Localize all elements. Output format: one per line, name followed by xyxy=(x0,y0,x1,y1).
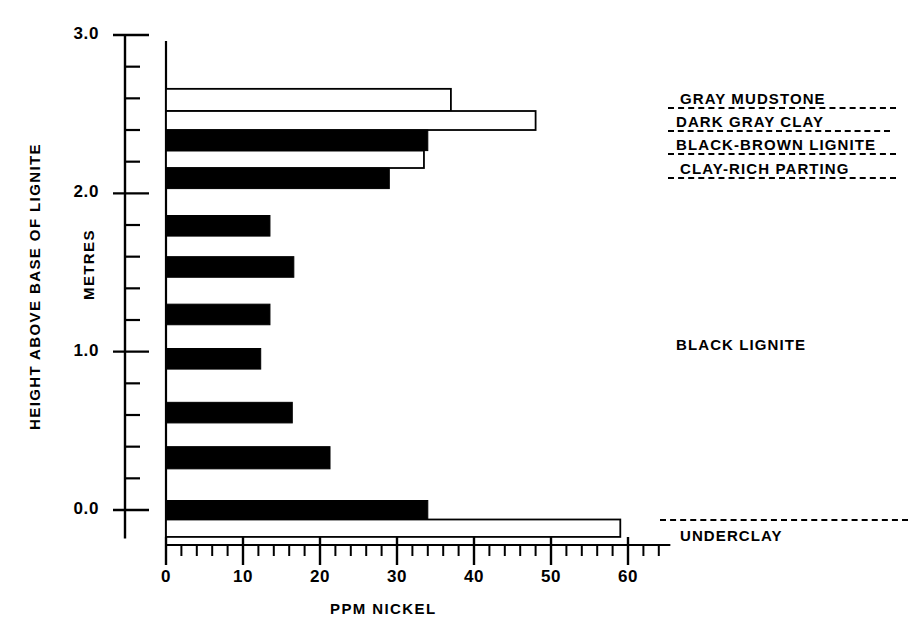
bar-10-black xyxy=(166,402,292,423)
bar-13-white xyxy=(166,519,620,536)
y-tick-label-1.0: 1.0 xyxy=(53,341,99,361)
y-tick-label-3.0: 3.0 xyxy=(53,24,99,44)
x-tick-label-30: 30 xyxy=(377,567,417,587)
y-tick-label-2.0: 2.0 xyxy=(53,182,99,202)
bar-3-black xyxy=(166,130,428,151)
strat-label-black-lignite: BLACK LIGNITE xyxy=(676,336,806,353)
bar-8-black xyxy=(166,304,270,325)
nickel-profile-figure: HEIGHT ABOVE BASE OF LIGNITE METRES PPM … xyxy=(0,0,910,639)
bar-2-white xyxy=(166,111,536,130)
y-tick-label-0.0: 0.0 xyxy=(53,499,99,519)
strat-label-dark-gray-clay: DARK GRAY CLAY xyxy=(676,113,824,130)
strat-label-gray-mudstone: GRAY MUDSTONE xyxy=(680,90,826,107)
bar-1-white xyxy=(166,89,451,111)
bar-11-black xyxy=(166,447,330,469)
bar-5-black xyxy=(166,168,389,189)
x-tick-label-0: 0 xyxy=(146,567,186,587)
bar-4-white xyxy=(166,151,424,168)
strat-label-clay-rich-parting: CLAY-RICH PARTING xyxy=(680,160,850,177)
x-tick-label-50: 50 xyxy=(531,567,571,587)
strat-label-underclay: UNDERCLAY xyxy=(680,527,783,544)
strat-separator-1 xyxy=(668,107,896,109)
bar-6-black xyxy=(166,216,270,237)
strat-label-black-brown-lignite: BLACK-BROWN LIGNITE xyxy=(676,136,876,153)
strat-separator-2 xyxy=(668,130,890,132)
x-axis-title: PPM NICKEL xyxy=(330,600,437,617)
bar-7-black xyxy=(166,257,294,278)
bar-9-black xyxy=(166,349,261,370)
x-tick-label-40: 40 xyxy=(454,567,494,587)
y-axis-title: HEIGHT ABOVE BASE OF LIGNITE xyxy=(26,143,43,430)
x-tick-label-10: 10 xyxy=(223,567,263,587)
strat-separator-4 xyxy=(668,177,896,179)
strat-separator-underclay xyxy=(660,519,908,521)
x-tick-label-60: 60 xyxy=(608,567,648,587)
y-axis-units-label: METRES xyxy=(80,229,97,300)
strat-separator-3 xyxy=(668,153,896,155)
x-tick-label-20: 20 xyxy=(300,567,340,587)
bar-12-black xyxy=(166,501,428,520)
